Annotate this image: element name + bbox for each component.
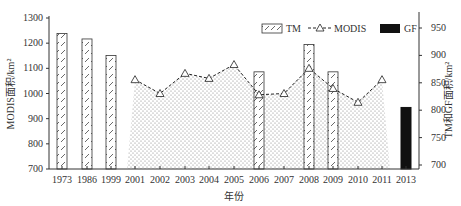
x-tick-label: 2001 [125,174,145,185]
x-tick-label: 2005 [224,174,244,185]
legend-tm-swatch [262,24,282,33]
y-right-tick-label: 700 [431,159,446,170]
x-tick-label: 2009 [323,174,343,185]
x-axis-title: 年份 [224,190,244,202]
tm-bar-2006 [254,72,264,169]
y-right-tick-label: 900 [431,49,446,60]
chart: 7008009001000110012001300700750800850900… [0,0,461,206]
y-axis-left-title: MODIS面积/km² [5,59,16,130]
legend-modis-label: MODIS [334,23,366,34]
y-left-tick-label: 900 [28,113,43,124]
y-left-tick-label: 1100 [23,62,43,73]
modis-point-2001 [131,76,139,83]
x-tick-label: 2010 [348,174,368,185]
y-right-tick-label: 950 [431,22,446,33]
x-tick-label: 2004 [199,174,219,185]
x-tick-label: 2011 [372,174,392,185]
tm-bar-1999 [106,55,116,169]
x-tick-label: 2006 [249,174,269,185]
legend: TMMODISGF [262,23,417,34]
modis-point-2011 [378,76,386,83]
x-tick-label: 2003 [175,174,195,185]
y-left-tick-label: 1200 [23,37,43,48]
legend-gf-label: GF [404,23,417,34]
tm-bar-1973 [57,33,67,169]
y-left-tick-label: 1000 [23,88,43,99]
tm-bar-1986 [82,39,92,169]
y-axis-right-title: TM和GF面积/km² [443,62,454,138]
x-tick-label: 2008 [299,174,319,185]
modis-point-2003 [181,69,189,76]
legend-modis-marker [316,24,324,31]
legend-gf-swatch [380,24,400,33]
x-tick-label: 1986 [77,174,97,185]
x-tick-label: 1999 [101,174,121,185]
y-left-tick-label: 800 [28,138,43,149]
tm-bar-2008 [304,44,314,169]
x-tick-label: 2007 [274,174,294,185]
y-left-tick-label: 700 [28,163,43,174]
x-tick-label: 2002 [150,174,170,185]
gf-bar-2013 [401,107,411,169]
modis-point-2005 [230,61,238,68]
legend-tm-label: TM [286,23,301,34]
x-tick-label: 2013 [396,174,416,185]
y-left-tick-label: 1300 [23,12,43,23]
x-tick-label: 1973 [52,174,72,185]
